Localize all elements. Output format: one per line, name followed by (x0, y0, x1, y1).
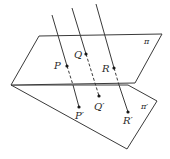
plane-pi-prime (11, 85, 157, 149)
label-q: Q (74, 49, 82, 60)
point-p-prime (77, 105, 80, 108)
parallel-projection-diagram: P Q R P′ Q′ R′ π π′ (0, 0, 170, 159)
label-p-prime: P′ (74, 110, 85, 121)
label-r: R (101, 63, 110, 74)
plane-pi (11, 34, 162, 85)
label-q-prime: Q′ (94, 101, 105, 112)
label-p: P (53, 60, 61, 71)
point-q-prime (97, 94, 100, 97)
point-q (84, 52, 87, 55)
point-r (112, 66, 115, 69)
point-r-prime (126, 110, 129, 113)
label-plane-pi-prime: π′ (140, 102, 148, 111)
label-r-prime: R′ (122, 115, 134, 126)
label-plane-pi: π (143, 37, 150, 46)
point-p (65, 64, 68, 67)
